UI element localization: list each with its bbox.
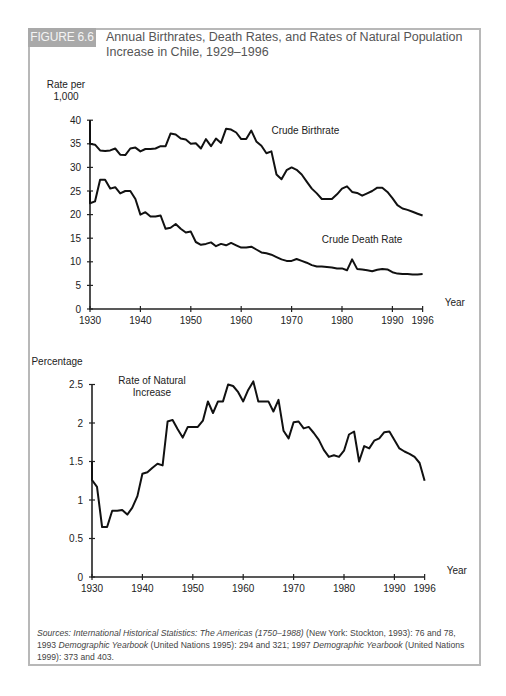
series-line [90,120,423,215]
y-tick-label: 15 [70,233,82,244]
source-title: Sources: International Historical Statis… [37,628,304,638]
y-tick-label: 1 [77,495,83,506]
x-tick-label: 1960 [232,583,255,594]
source-italic3: Demographic Yearbook [313,640,403,650]
x-tick-label: 1990 [381,315,404,326]
series-label: Increase [133,387,172,398]
x-tick-label: 1960 [230,315,253,326]
source-part2: (United Nations 1995): 294 and 321; 1997 [148,640,313,650]
x-tick-label: 1970 [280,315,303,326]
series-label: Crude Birthrate [271,125,339,136]
x-tick-label: 1980 [333,583,356,594]
x-tick-label: 1950 [180,315,203,326]
y-tick-label: 40 [70,115,82,126]
y-tick-label: 10 [70,256,82,267]
x-axis-label: Year [447,565,468,576]
x-tick-label: 1990 [383,583,406,594]
x-tick-label: 1930 [79,315,102,326]
source-italic2: Demographic Yearbook [59,640,149,650]
y-tick-label: 35 [70,138,82,149]
y-tick-label: 25 [70,186,82,197]
x-tick-label: 1970 [282,583,305,594]
y-tick-label: 5 [75,280,81,291]
x-tick-label: 1980 [331,315,354,326]
y-tick-label: 1.5 [69,456,83,467]
x-axis-label: Year [445,297,466,308]
y-tick-label: 0 [77,572,83,583]
y-tick-label: 0 [75,304,81,315]
series-label: Rate of Natural [118,375,185,386]
x-tick-label: 1940 [131,583,154,594]
y-tick-label: 20 [70,209,82,220]
x-tick-label: 1950 [182,583,205,594]
x-tick-label: 1930 [81,583,104,594]
y-tick-label: 0.5 [69,533,83,544]
source-note: Sources: International Historical Statis… [37,627,477,663]
charts-svg: 0510152025303540193019401950196019701980… [0,0,506,696]
series-label: Crude Death Rate [322,234,403,245]
y-tick-label: 30 [70,162,82,173]
y-tick-label: 2 [77,418,83,429]
x-tick-label: 1940 [129,315,152,326]
series-line [92,381,425,527]
x-tick-label: 1996 [414,583,437,594]
y-tick-label: 2.5 [69,379,83,390]
x-tick-label: 1996 [412,315,435,326]
series-line [90,180,423,275]
